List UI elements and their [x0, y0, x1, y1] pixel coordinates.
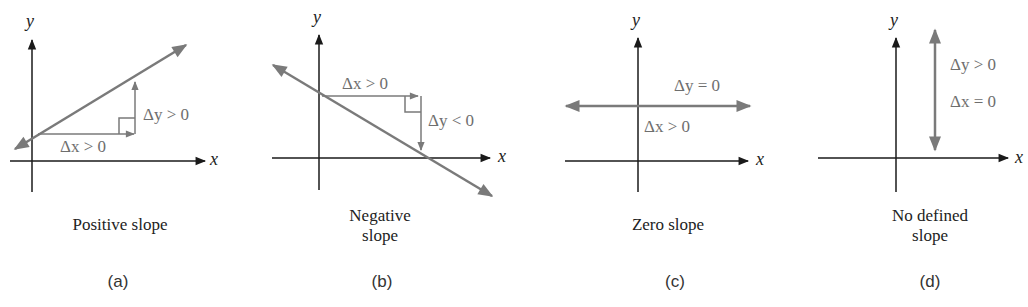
right-angle-marker	[119, 118, 135, 134]
delta-y-label: Δy > 0	[950, 55, 996, 74]
delta-x-label: Δx > 0	[342, 74, 388, 93]
y-axis-label: y	[311, 7, 321, 27]
y-axis-label: y	[24, 11, 34, 31]
panel-a-graph: y x Δx > 0 Δy > 0	[10, 11, 218, 192]
right-angle-marker	[405, 96, 421, 112]
x-axis-label: x	[1014, 147, 1023, 167]
delta-y-label: Δy < 0	[428, 111, 474, 130]
x-axis-label: x	[209, 149, 218, 169]
x-axis-label: x	[755, 149, 764, 169]
panel-b-graph: y x Δx > 0 Δy < 0	[272, 7, 506, 196]
delta-x-label: Δx > 0	[60, 137, 106, 156]
y-axis-label: y	[630, 10, 640, 30]
delta-y-label: Δy > 0	[143, 105, 189, 124]
caption-line: slope	[310, 226, 450, 246]
caption-no-defined-slope: No defined slope	[860, 206, 1000, 246]
caption-negative-slope: Negative slope	[310, 206, 450, 246]
panel-d-graph: y x Δy > 0 Δx = 0	[818, 10, 1023, 192]
panel-tag-a: (a)	[78, 272, 158, 292]
caption-positive-slope: Positive slope	[40, 215, 200, 235]
caption-zero-slope: Zero slope	[598, 215, 738, 235]
panel-tag-d: (d)	[900, 272, 960, 292]
delta-y-label: Δy = 0	[674, 76, 720, 95]
caption-line: Negative	[310, 206, 450, 226]
panel-c-graph: y x Δy = 0 Δx > 0	[565, 10, 764, 192]
y-axis-label: y	[888, 10, 898, 30]
caption-line: No defined	[860, 206, 1000, 226]
x-axis-label: x	[497, 146, 506, 166]
delta-x-label: Δx = 0	[950, 92, 996, 111]
panel-tag-b: (b)	[352, 272, 412, 292]
slope-diagrams: y x Δx > 0 Δy > 0 y x Δx > 0 Δy < 0 y x …	[0, 0, 1028, 307]
caption-line: slope	[860, 226, 1000, 246]
delta-x-label: Δx > 0	[644, 117, 690, 136]
panel-tag-c: (c)	[645, 272, 705, 292]
